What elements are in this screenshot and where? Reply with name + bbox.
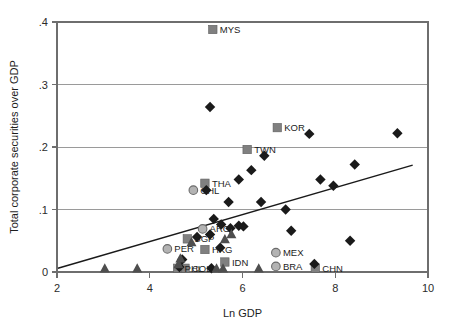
data-point [315, 174, 325, 184]
y-tick-label: 0 [42, 266, 48, 278]
data-point-mys [209, 25, 217, 33]
data-markers [100, 25, 403, 273]
scatter-chart-figure: 0.1.2.3.4 246810 MYSKORTWNTHASGPHKGIDNCO… [0, 0, 450, 327]
x-axis-ticks: 246810 [54, 272, 434, 294]
data-point-labels: MYSKORTWNTHASGPHKGIDNCOLPHLCHNCHLARGPERM… [174, 24, 343, 274]
y-tick-label: .4 [39, 16, 48, 28]
x-tick-label: 8 [332, 282, 338, 294]
data-point [132, 263, 142, 272]
point-label-arg: ARG [210, 223, 231, 234]
y-tick-label: .1 [39, 204, 48, 216]
x-tick-label: 4 [147, 282, 153, 294]
data-point-kor [273, 123, 281, 131]
data-point [345, 236, 355, 246]
point-label-twn: TWN [254, 144, 276, 155]
y-tick-label: .2 [39, 141, 48, 153]
point-label-mys: MYS [220, 24, 241, 35]
x-tick-label: 6 [239, 282, 245, 294]
svg-text:Ln GDP: Ln GDP [223, 307, 262, 319]
chart-canvas: 0.1.2.3.4 246810 MYSKORTWNTHASGPHKGIDNCO… [0, 0, 450, 327]
y-axis-title: Total corporate securities over GDP [8, 60, 20, 234]
data-point [286, 226, 296, 236]
data-point-per [163, 245, 172, 254]
data-point-arg [198, 225, 207, 234]
data-point [205, 102, 215, 112]
y-axis-ticks: 0.1.2.3.4 [39, 16, 57, 278]
data-point [246, 165, 256, 175]
gridlines [57, 85, 428, 210]
data-point-hkg [201, 245, 209, 253]
data-point-idn [221, 258, 229, 266]
point-label-sgp: SGP [194, 233, 214, 244]
point-label-chn: CHN [322, 263, 343, 274]
y-tick-label: .3 [39, 79, 48, 91]
point-label-mex: MEX [283, 247, 304, 258]
data-point-twn [243, 145, 251, 153]
data-point [100, 263, 110, 272]
point-label-kor: KOR [284, 122, 305, 133]
data-point [234, 174, 244, 184]
point-label-chl: CHL [200, 185, 219, 196]
data-point [350, 159, 360, 169]
point-label-per: PER [174, 243, 194, 254]
data-point-bra [272, 262, 281, 271]
data-point-mex [272, 248, 281, 257]
data-point [304, 129, 314, 139]
point-label-bra: BRA [283, 261, 303, 272]
data-point [392, 128, 402, 138]
point-label-idn: IDN [232, 257, 249, 268]
point-label-hkg: HKG [212, 244, 233, 255]
data-point [256, 197, 266, 207]
point-label-phl: PHL [185, 263, 203, 274]
data-point [254, 263, 264, 272]
data-point-chl [189, 186, 198, 195]
x-tick-label: 2 [54, 282, 60, 294]
x-tick-label: 10 [422, 282, 434, 294]
data-point [223, 197, 233, 207]
data-point [280, 204, 290, 214]
